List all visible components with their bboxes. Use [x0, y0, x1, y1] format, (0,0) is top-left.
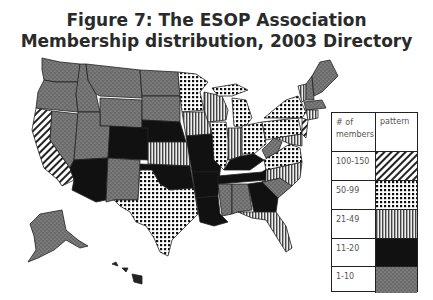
state-co [108, 126, 148, 160]
legend-row: 1-10 [332, 267, 417, 293]
legend-label: 21-49 [332, 210, 376, 238]
gray-dotted-swatch [376, 267, 417, 293]
state-nm [106, 158, 140, 202]
state-nj [302, 118, 308, 138]
state-fl [238, 212, 292, 252]
legend-label: 1-10 [332, 267, 376, 293]
state-ak [28, 210, 88, 262]
state-sd [142, 96, 180, 122]
state-me [312, 60, 338, 96]
state-ct [306, 110, 318, 120]
state-ms [218, 184, 232, 216]
checkerboard-swatch [376, 181, 417, 209]
legend-header-pattern: pattern [380, 117, 409, 126]
diagonal-stripes-swatch [376, 152, 417, 180]
state-az [70, 158, 108, 202]
state-wi [204, 92, 228, 122]
state-mi-upper [212, 84, 248, 96]
state-in [228, 128, 242, 160]
state-ny [264, 96, 306, 118]
legend-row: 50-99 [332, 181, 417, 210]
state-mi [232, 98, 252, 128]
state-hi [112, 262, 142, 284]
legend-label: 50-99 [332, 181, 376, 209]
legend-row: 21-49 [332, 210, 417, 239]
legend-label: 11-20 [332, 239, 376, 266]
vertical-stripes-swatch [376, 210, 417, 238]
state-mn [178, 72, 208, 112]
state-wy [100, 98, 142, 128]
solid-black-swatch [376, 239, 417, 266]
state-ne [142, 120, 186, 142]
legend-header-count: # of members [332, 113, 376, 151]
state-ma [304, 100, 326, 110]
legend-row: 100-150 [332, 152, 417, 181]
state-ar [192, 172, 220, 198]
legend-label: 100-150 [332, 152, 376, 180]
state-ks [148, 142, 190, 166]
state-wa [42, 58, 80, 82]
legend-row: 11-20 [332, 239, 417, 267]
state-or [36, 80, 80, 112]
state-nd [140, 70, 180, 96]
legend: # of members pattern 100-150 50-99 21-49… [331, 112, 418, 292]
legend-header-row: # of members pattern [332, 113, 417, 152]
